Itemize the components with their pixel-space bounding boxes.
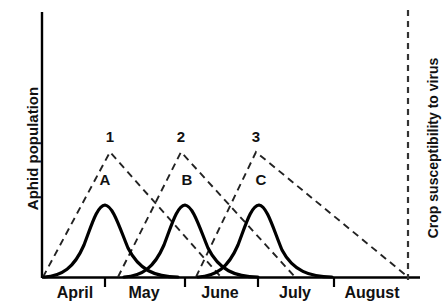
curve-label-a: A — [85, 171, 125, 188]
curve-label-b: B — [167, 171, 207, 188]
x-tick-label-july: July — [264, 284, 326, 302]
y-axis-title-right: Crop susceptibility to virus — [425, 33, 441, 263]
x-tick-label-april: April — [44, 284, 106, 302]
peak-label-3: 3 — [236, 128, 276, 145]
y-axis-title-left: Aphid population — [24, 59, 41, 239]
x-tick-label-may: May — [113, 284, 175, 302]
x-tick-label-august: August — [336, 284, 408, 302]
chart-figure: Aphid population Crop susceptibility to … — [0, 0, 444, 306]
x-tick-label-june: June — [189, 284, 251, 302]
chart-plot-area — [0, 0, 444, 306]
peak-label-2: 2 — [161, 128, 201, 145]
curve-label-c: C — [241, 171, 281, 188]
dashed-curve-3 — [196, 152, 408, 277]
solid-curve-c — [198, 205, 332, 277]
solid-curve-a — [44, 205, 178, 277]
peak-label-1: 1 — [90, 128, 130, 145]
